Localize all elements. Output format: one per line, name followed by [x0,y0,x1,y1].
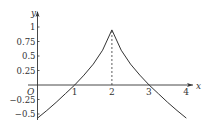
y-axis-label: y [30,8,37,18]
x-tick-label: 3 [146,87,152,97]
tick-labels: 123410.750.50.25−0.25−0.5 [9,22,189,119]
y-tick-label: −0.5 [15,109,36,119]
y-tick-label: 1 [30,22,35,32]
x-tick-label: 4 [183,87,189,97]
x-axis-label: x [196,81,201,91]
y-tick-label: 0.25 [17,66,36,76]
y-tick-label: −0.25 [9,95,35,105]
y-tick-label: 0.75 [17,37,36,47]
x-tick-label: 2 [109,87,115,97]
x-tick-label: 1 [72,87,78,97]
chart-plot: xyO 123410.750.50.25−0.25−0.5 [0,0,211,131]
axes: xyO [27,8,201,120]
y-tick-label: 0.5 [22,51,36,61]
